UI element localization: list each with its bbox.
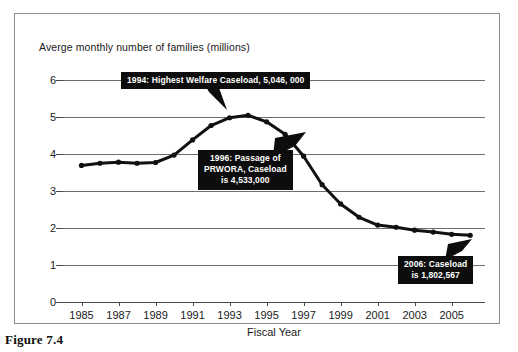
y-tick-mark — [56, 80, 63, 81]
y-tick-mark — [56, 228, 63, 229]
annotation-1996-line-3: is 4,533,000 — [204, 175, 287, 186]
annotation-1996-line-1: 1996: Passage of — [204, 153, 287, 164]
y-tick-mark — [56, 302, 63, 303]
data-point-1993 — [227, 115, 232, 120]
data-point-2000 — [357, 215, 362, 220]
x-tick-mark-2005 — [452, 302, 453, 306]
data-point-2006 — [468, 233, 473, 238]
data-point-2003 — [412, 228, 417, 233]
annotation-1996-prwora: 1996: Passage of PRWORA, Caseload is 4,5… — [198, 150, 293, 190]
x-axis-tick-label-1987: 1987 — [106, 310, 130, 321]
y-axis-title: Averge monthly number of families (milli… — [39, 41, 250, 53]
data-point-1998 — [320, 182, 325, 187]
data-point-1987 — [116, 160, 121, 165]
x-tick-mark-2001 — [378, 302, 379, 306]
x-tick-mark-1989 — [156, 302, 157, 306]
data-point-1999 — [338, 201, 343, 206]
x-axis-tick-label-1993: 1993 — [217, 310, 241, 321]
x-axis-tick-label-1991: 1991 — [180, 310, 204, 321]
x-tick-mark-1999 — [341, 302, 342, 306]
annotation-1994-peak: 1994: Highest Welfare Caseload, 5,046, 0… — [121, 72, 310, 89]
annotation-1996-line-2: PRWORA, Caseload — [204, 164, 287, 175]
y-tick-mark — [56, 265, 63, 266]
figure-caption: Figure 7.4 — [5, 332, 63, 348]
annotation-1994-line-1: 1994: Highest Welfare Caseload, 5,046, 0… — [127, 75, 304, 86]
data-point-1986 — [97, 161, 102, 166]
annotation-2006-line-2: is 1,802,567 — [404, 270, 467, 281]
figure-frame: Averge monthly number of families (milli… — [14, 13, 500, 324]
x-axis-tick-label-1995: 1995 — [254, 310, 278, 321]
x-axis-tick-label-1985: 1985 — [69, 310, 93, 321]
x-axis-tick-label-1997: 1997 — [291, 310, 315, 321]
gridline-y-0 — [63, 302, 485, 303]
x-axis-title: Fiscal Year — [63, 326, 485, 338]
x-tick-mark-2003 — [415, 302, 416, 306]
y-tick-mark — [56, 154, 63, 155]
y-axis-tick-label: 3 — [50, 186, 56, 197]
data-point-1988 — [134, 161, 139, 166]
x-axis-tick-label-2001: 2001 — [365, 310, 389, 321]
data-point-1985 — [79, 163, 84, 168]
x-tick-mark-1985 — [82, 302, 83, 306]
x-tick-mark-1987 — [119, 302, 120, 306]
x-axis-tick-label-2003: 2003 — [402, 310, 426, 321]
x-axis-tick-label-1999: 1999 — [328, 310, 352, 321]
x-axis-tick-label-2005: 2005 — [439, 310, 463, 321]
x-tick-mark-1995 — [267, 302, 268, 306]
y-axis-tick-label: 1 — [50, 260, 56, 271]
x-tick-mark-1993 — [230, 302, 231, 306]
x-tick-mark-1991 — [193, 302, 194, 306]
data-point-1994 — [245, 113, 250, 118]
data-point-2004 — [431, 229, 436, 234]
data-point-1995 — [264, 119, 269, 124]
data-point-1991 — [190, 137, 195, 142]
data-point-1992 — [208, 123, 213, 128]
y-axis-tick-label: 6 — [50, 75, 56, 86]
annotation-2006-caseload: 2006: Caseload is 1,802,567 — [398, 256, 473, 284]
x-axis-tick-label-1989: 1989 — [143, 310, 167, 321]
data-point-2001 — [375, 222, 380, 227]
data-point-2002 — [394, 225, 399, 230]
y-tick-mark — [56, 117, 63, 118]
annotation-2006-line-1: 2006: Caseload — [404, 259, 467, 270]
x-tick-mark-1997 — [304, 302, 305, 306]
data-point-1989 — [153, 160, 158, 165]
y-axis-tick-label: 2 — [50, 223, 56, 234]
y-axis-tick-label: 0 — [50, 297, 56, 308]
y-tick-mark — [56, 191, 63, 192]
y-axis-tick-label: 5 — [50, 112, 56, 123]
data-point-1990 — [171, 153, 176, 158]
data-point-2005 — [449, 232, 454, 237]
y-axis-tick-label: 4 — [50, 149, 56, 160]
